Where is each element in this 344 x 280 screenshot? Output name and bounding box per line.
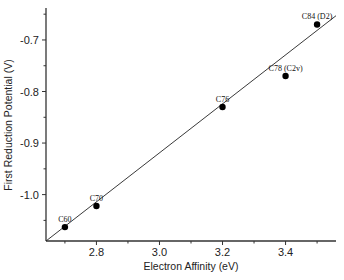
y-axis-title: First Reduction Potential (V) xyxy=(2,59,14,190)
data-point xyxy=(314,21,320,27)
regression-line xyxy=(46,16,336,241)
data-point xyxy=(62,224,68,230)
x-tick-label: 3.0 xyxy=(152,246,167,258)
data-points: C60C70C76C78 (C2v)C84 (D2) xyxy=(58,12,332,230)
data-point xyxy=(282,73,288,79)
y-tick-label: -0.9 xyxy=(20,137,39,149)
point-label: C84 (D2) xyxy=(302,12,333,21)
x-tick-label: 2.8 xyxy=(89,246,104,258)
point-label: C60 xyxy=(58,215,71,224)
y-tick-label: -1.0 xyxy=(20,189,39,201)
point-label: C76 xyxy=(216,95,229,104)
data-point xyxy=(219,104,225,110)
x-axis-title: Electron Affinity (eV) xyxy=(144,260,239,272)
point-label: C78 (C2v) xyxy=(269,64,303,73)
x-tick-label: 3.2 xyxy=(215,246,230,258)
scatter-chart: 2.83.03.23.4-0.7-0.8-0.9-1.0 C60C70C76C7… xyxy=(0,0,344,280)
y-tick-label: -0.8 xyxy=(20,86,39,98)
data-point xyxy=(93,203,99,209)
y-tick-label: -0.7 xyxy=(20,34,39,46)
point-label: C70 xyxy=(90,194,103,203)
x-tick-label: 3.4 xyxy=(278,246,293,258)
fit-line xyxy=(46,16,336,241)
